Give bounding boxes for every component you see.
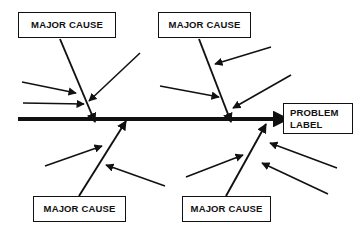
major-cause-label: MAJOR CAUSE: [191, 204, 263, 214]
sub-cause-line-sub-tr-2: [160, 86, 219, 97]
sub-cause-line-sub-br-2: [270, 143, 337, 168]
major-cause-box-top-right[interactable]: MAJOR CAUSE: [158, 12, 251, 38]
sub-cause-line-sub-tl-3: [89, 53, 140, 101]
major-cause-box-top-left[interactable]: MAJOR CAUSE: [18, 12, 116, 38]
major-cause-label: MAJOR CAUSE: [31, 20, 103, 30]
branch-line-branch-top-right: [199, 39, 231, 122]
major-cause-label: MAJOR CAUSE: [44, 204, 116, 214]
sub-cause-line-sub-bl-1: [45, 146, 102, 166]
fishbone-diagram: MAJOR CAUSE MAJOR CAUSE MAJOR CAUSE MAJO…: [0, 0, 364, 235]
major-cause-box-bottom-right[interactable]: MAJOR CAUSE: [182, 196, 271, 222]
branch-line-branch-bottom-left: [79, 121, 126, 196]
sub-cause-line-sub-tl-2: [23, 103, 84, 104]
major-cause-box-bottom-left[interactable]: MAJOR CAUSE: [33, 196, 126, 222]
branch-line-branch-top-left: [60, 39, 95, 122]
problem-label-line-1: PROBLEM: [290, 107, 339, 119]
problem-label-box[interactable]: PROBLEM LABEL: [283, 103, 353, 134]
sub-cause-line-sub-br-3: [262, 163, 328, 194]
sub-cause-line-sub-bl-2: [106, 165, 165, 186]
problem-label-line-2: LABEL: [290, 119, 322, 131]
major-cause-label: MAJOR CAUSE: [169, 20, 241, 30]
sub-cause-line-sub-br-1: [186, 155, 243, 177]
sub-cause-line-sub-tr-1: [215, 47, 271, 64]
sub-cause-line-sub-tl-1: [22, 82, 76, 93]
